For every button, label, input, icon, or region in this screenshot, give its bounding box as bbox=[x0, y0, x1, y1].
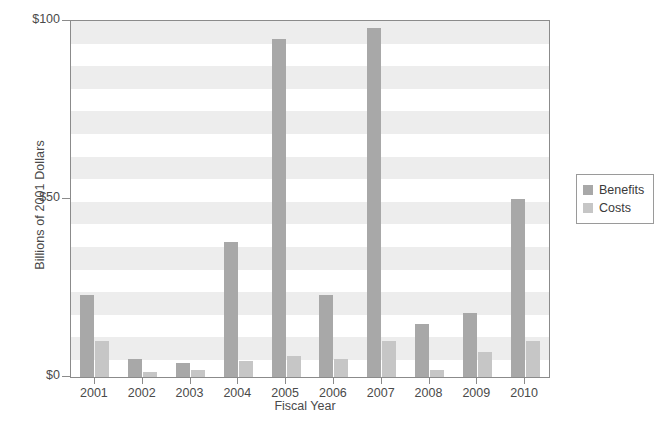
legend-label-costs: Costs bbox=[599, 201, 631, 215]
bar-costs-2009 bbox=[478, 352, 492, 377]
bar-costs-2010 bbox=[526, 341, 540, 377]
x-axis-tick bbox=[142, 377, 143, 384]
y-axis-tick bbox=[62, 376, 70, 377]
bar-group bbox=[262, 21, 310, 377]
bar-benefits-2002 bbox=[128, 359, 142, 377]
x-axis-tick bbox=[476, 377, 477, 384]
bar-benefits-2005 bbox=[272, 39, 286, 377]
bar-benefits-2009 bbox=[463, 313, 477, 377]
bar-benefits-2003 bbox=[176, 363, 190, 377]
x-axis-tick bbox=[237, 377, 238, 384]
y-axis-tick bbox=[62, 198, 70, 199]
bar-chart-figure: Billions of 2001 Dollars $0$50$100 20012… bbox=[0, 0, 663, 421]
bar-benefits-2004 bbox=[224, 242, 238, 377]
chart-legend: Benefits Costs bbox=[576, 174, 654, 224]
bar-group bbox=[406, 21, 454, 377]
bar-group bbox=[453, 21, 501, 377]
bar-costs-2001 bbox=[95, 341, 109, 377]
bar-benefits-2006 bbox=[319, 295, 333, 377]
bar-costs-2002 bbox=[143, 372, 157, 377]
bar-benefits-2008 bbox=[415, 324, 429, 377]
legend-label-benefits: Benefits bbox=[599, 183, 644, 197]
bar-series-container bbox=[71, 21, 549, 377]
bar-group bbox=[214, 21, 262, 377]
bar-group bbox=[71, 21, 119, 377]
plot-area bbox=[70, 20, 550, 378]
bar-group bbox=[167, 21, 215, 377]
legend-swatch-benefits-icon bbox=[583, 185, 593, 195]
bar-group bbox=[310, 21, 358, 377]
bar-costs-2008 bbox=[430, 370, 444, 377]
y-axis-tick-label: $100 bbox=[4, 12, 60, 26]
x-axis-tick bbox=[333, 377, 334, 384]
x-axis-title: Fiscal Year bbox=[60, 399, 550, 413]
bar-costs-2003 bbox=[191, 370, 205, 377]
y-axis-tick-label: $0 bbox=[4, 368, 60, 382]
bar-group bbox=[358, 21, 406, 377]
x-axis-tick bbox=[285, 377, 286, 384]
x-axis-tick bbox=[381, 377, 382, 384]
y-axis-tick-label: $50 bbox=[4, 190, 60, 204]
bar-costs-2006 bbox=[334, 359, 348, 377]
bar-costs-2007 bbox=[382, 341, 396, 377]
x-axis-tick bbox=[190, 377, 191, 384]
bar-group bbox=[119, 21, 167, 377]
bar-benefits-2007 bbox=[367, 28, 381, 377]
bar-benefits-2010 bbox=[511, 199, 525, 377]
y-axis-tick bbox=[62, 20, 70, 21]
bar-group bbox=[501, 21, 549, 377]
bar-costs-2005 bbox=[287, 356, 301, 377]
x-axis-tick bbox=[429, 377, 430, 384]
legend-item-benefits: Benefits bbox=[583, 181, 644, 199]
legend-item-costs: Costs bbox=[583, 199, 644, 217]
y-axis-tick-labels: $0$50$100 bbox=[0, 0, 60, 421]
x-axis-tick bbox=[94, 377, 95, 384]
x-axis-tick bbox=[524, 377, 525, 384]
x-axis-tick-label-2010: 2010 bbox=[494, 386, 554, 400]
bar-benefits-2001 bbox=[80, 295, 94, 377]
legend-swatch-costs-icon bbox=[583, 203, 593, 213]
bar-costs-2004 bbox=[239, 361, 253, 377]
